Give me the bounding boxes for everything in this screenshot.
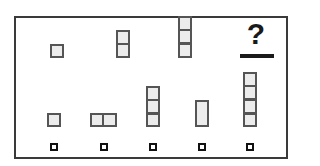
question-mark: ? <box>243 17 269 51</box>
square-cell[interactable] <box>195 100 209 127</box>
option-3-select-marker[interactable] <box>149 143 157 151</box>
square-cell <box>178 43 192 58</box>
option-1-select-marker[interactable] <box>50 143 58 151</box>
square-cell[interactable] <box>243 113 257 127</box>
square-cell <box>178 29 192 44</box>
square-cell[interactable] <box>146 99 160 114</box>
answer-blank-line <box>240 54 274 58</box>
option-4-select-marker[interactable] <box>198 143 206 151</box>
square-cell <box>50 44 64 58</box>
square-cell[interactable] <box>146 113 160 127</box>
option-5-select-marker[interactable] <box>246 143 254 151</box>
square-cell[interactable] <box>47 113 61 127</box>
square-cell[interactable] <box>243 85 257 100</box>
square-cell <box>116 43 130 58</box>
square-cell[interactable] <box>102 113 117 127</box>
square-cell[interactable] <box>243 99 257 114</box>
option-2-select-marker[interactable] <box>100 143 108 151</box>
